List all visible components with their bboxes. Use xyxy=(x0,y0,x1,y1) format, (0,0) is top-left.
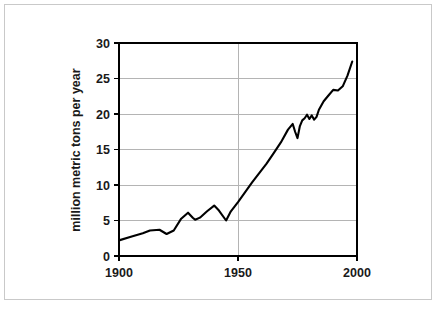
x-tick-label-2000: 2000 xyxy=(343,266,371,280)
x-tick-label-1900: 1900 xyxy=(105,266,133,280)
y-tick-label-30: 30 xyxy=(96,37,110,51)
line-chart: 051015202530 190019502000 million metric… xyxy=(0,0,440,313)
y-tick-label-20: 20 xyxy=(96,108,110,122)
y-axis-title-group: million metric tons per year xyxy=(69,68,83,231)
x-tick-labels: 190019502000 xyxy=(105,266,371,280)
y-tick-label-0: 0 xyxy=(103,250,110,264)
x-tick-label-1950: 1950 xyxy=(224,266,252,280)
y-tick-label-15: 15 xyxy=(96,143,110,157)
y-tick-labels: 051015202530 xyxy=(96,37,110,264)
y-axis-title: million metric tons per year xyxy=(69,68,83,231)
y-tick-label-25: 25 xyxy=(96,72,110,86)
chart-figure: 051015202530 190019502000 million metric… xyxy=(0,0,440,313)
y-tick-label-5: 5 xyxy=(103,214,110,228)
y-tick-label-10: 10 xyxy=(96,179,110,193)
